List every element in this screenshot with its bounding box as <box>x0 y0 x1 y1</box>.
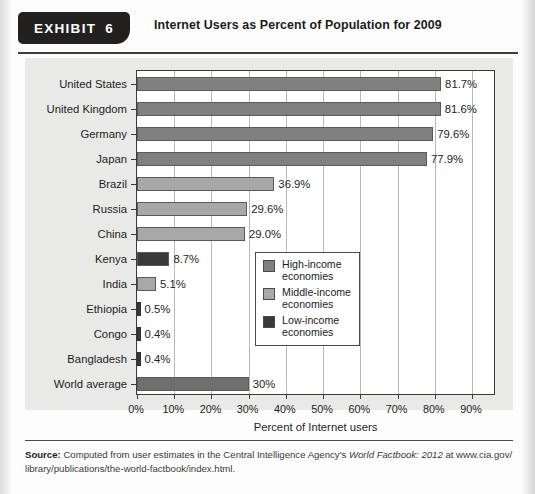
bar-value-label: 0.4% <box>145 327 171 341</box>
x-axis-tick-label: 70% <box>386 403 408 415</box>
chart-panel: United States81.7%United Kingdom81.6%Ger… <box>25 58 513 410</box>
legend-item[interactable]: Middle-income economies <box>263 287 351 310</box>
chart-bar[interactable] <box>137 277 156 291</box>
chart-bar[interactable] <box>137 227 245 241</box>
category-label: Russia <box>92 202 127 216</box>
category-label: Congo <box>94 327 127 341</box>
x-axis-tick-label: 20% <box>200 403 222 415</box>
bar-value-label: 36.9% <box>278 177 310 191</box>
legend-label: Low-income economies <box>282 315 339 338</box>
x-axis-tick <box>249 394 250 399</box>
chart-bar[interactable] <box>137 202 247 216</box>
x-axis-tick <box>398 394 399 399</box>
exhibit-badge: EXHIBIT 6 <box>18 12 130 44</box>
x-axis-tick <box>211 394 212 399</box>
source-text-b: at www.cia.gov/ <box>443 449 512 460</box>
legend-label: Middle-income economies <box>282 287 351 310</box>
bar-value-label: 81.6% <box>445 102 477 116</box>
chart-bar[interactable] <box>137 377 249 391</box>
bar-value-label: 5.1% <box>160 277 186 291</box>
chart-bar[interactable] <box>137 177 274 191</box>
bar-value-label: 81.7% <box>445 77 477 91</box>
x-axis-tick <box>360 394 361 399</box>
header-divider <box>18 52 518 54</box>
x-axis-tick-label: 30% <box>237 403 259 415</box>
x-axis-tick <box>137 394 138 399</box>
source-text-a: Computed from user estimates in the Cent… <box>61 449 349 460</box>
exhibit-badge-label: EXHIBIT <box>34 21 96 36</box>
chart-bar-row: Brazil36.9% <box>137 177 494 191</box>
legend-item[interactable]: High-income economies <box>263 259 351 282</box>
exhibit-badge-number: 6 <box>105 21 114 36</box>
legend-item[interactable]: Low-income economies <box>263 315 351 338</box>
exhibit-header: EXHIBIT 6 Internet Users as Percent of P… <box>18 12 518 52</box>
source-note: Source: Computed from user estimates in … <box>25 448 515 475</box>
chart-bar-row: Germany79.6% <box>137 127 494 141</box>
chart-bar-row: United States81.7% <box>137 77 494 91</box>
x-axis-tick-label: 0% <box>128 403 144 415</box>
chart-legend: High-income economiesMiddle-income econo… <box>255 252 360 346</box>
bar-value-label: 29.6% <box>251 202 283 216</box>
legend-swatch-high-income <box>263 260 275 272</box>
x-axis-tick <box>472 394 473 399</box>
chart-bar-row: United Kingdom81.6% <box>137 102 494 116</box>
category-label: Japan <box>96 152 127 166</box>
x-axis-tick <box>286 394 287 399</box>
x-axis-tick-label: 60% <box>349 403 371 415</box>
chart-bar[interactable] <box>137 77 441 91</box>
x-axis-title: Percent of Internet users <box>136 421 495 433</box>
exhibit-title: Internet Users as Percent of Population … <box>154 18 524 32</box>
x-axis-tick-label: 40% <box>274 403 296 415</box>
bar-value-label: 8.7% <box>173 252 199 266</box>
category-label: India <box>103 277 128 291</box>
chart-bar[interactable] <box>137 327 141 341</box>
x-axis-tick-label: 90% <box>460 403 482 415</box>
legend-swatch-middle-income <box>263 288 275 300</box>
bar-value-label: 77.9% <box>431 152 463 166</box>
category-label: Kenya <box>95 252 127 266</box>
exhibit-page: EXHIBIT 6 Internet Users as Percent of P… <box>0 0 535 494</box>
chart-bar-row: China29.0% <box>137 227 494 241</box>
x-axis-tick-label: 10% <box>162 403 184 415</box>
x-axis-tick <box>323 394 324 399</box>
category-label: United Kingdom <box>47 102 127 116</box>
x-axis-tick-label: 50% <box>311 403 333 415</box>
category-label: United States <box>59 77 127 91</box>
category-label: China <box>97 227 127 241</box>
category-label: Germany <box>81 127 127 141</box>
chart-bar-row: World average30% <box>137 377 494 391</box>
category-label: Brazil <box>99 177 127 191</box>
chart-bar[interactable] <box>137 252 169 266</box>
chart-bar[interactable] <box>137 302 141 316</box>
source-divider <box>25 440 513 441</box>
source-title-italic: World Factbook: 2012 <box>349 449 443 460</box>
chart-bar[interactable] <box>137 102 441 116</box>
chart-bar[interactable] <box>137 152 427 166</box>
chart-bar-row: Japan77.9% <box>137 152 494 166</box>
chart-bar[interactable] <box>137 127 433 141</box>
bar-value-label: 0.5% <box>145 302 171 316</box>
bar-value-label: 79.6% <box>437 127 469 141</box>
chart-bar-row: Russia29.6% <box>137 202 494 216</box>
x-axis-tick <box>174 394 175 399</box>
legend-swatch-low-income <box>263 316 275 328</box>
category-label: Bangladesh <box>67 352 127 366</box>
bar-value-label: 29.0% <box>249 227 281 241</box>
source-label: Source: <box>25 449 61 460</box>
legend-label: High-income economies <box>282 259 341 282</box>
bar-value-label: 0.4% <box>145 352 171 366</box>
source-url-line2: library/publications/the-world-factbook/… <box>25 463 235 474</box>
chart-bar-row: Bangladesh0.4% <box>137 352 494 366</box>
bar-value-label: 30% <box>253 377 276 391</box>
chart-bar[interactable] <box>137 352 141 366</box>
category-label: Ethiopia <box>86 302 127 316</box>
x-axis-tick-label: 80% <box>423 403 445 415</box>
x-axis-tick <box>435 394 436 399</box>
plot-area: United States81.7%United Kingdom81.6%Ger… <box>136 70 495 395</box>
category-label: World average <box>54 377 127 391</box>
